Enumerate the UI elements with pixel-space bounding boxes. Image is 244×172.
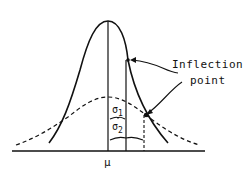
- annotation-arrow-lower: [148, 82, 182, 113]
- normal-distribution-diagram: Inflection point σ1 σ2 μ: [0, 0, 244, 172]
- mean-label: μ: [104, 156, 111, 169]
- annotation-label-line2: point: [190, 74, 226, 87]
- sigma2-label: σ2: [112, 121, 123, 135]
- inflection-point-narrow: [126, 58, 130, 62]
- annotation-label-line1: Inflection: [172, 58, 243, 71]
- sigma1-label: σ1: [112, 104, 123, 118]
- arrow-head-upper: [130, 57, 136, 63]
